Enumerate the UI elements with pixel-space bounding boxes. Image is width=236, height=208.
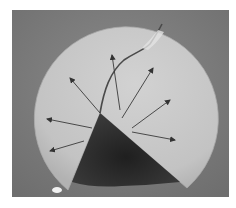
fractured-disc-photo <box>12 10 229 197</box>
photo-canvas <box>12 10 229 197</box>
highlight <box>52 187 62 193</box>
